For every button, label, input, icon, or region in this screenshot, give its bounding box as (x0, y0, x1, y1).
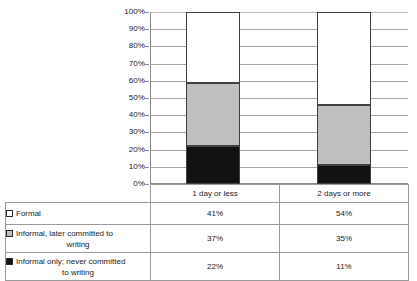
legend-line-2: writing (6, 239, 150, 250)
y-tickmark-10 (145, 167, 149, 168)
legend-cell-formal: Formal (6, 203, 151, 225)
legend-cell-informal-only: Informal only; never committed to writin… (6, 253, 151, 281)
table-row: Informal, later committed to writing 37%… (6, 225, 409, 253)
category-header-2: 2 days or more (280, 185, 409, 203)
y-tick-10: 10% (105, 163, 145, 171)
y-tickmark-60 (145, 81, 149, 82)
value-informal-later-1-day: 37% (151, 225, 280, 253)
y-axis-tick-labels: 100% 90% 80% 70% 60% 50% 40% 30% 20% 10%… (103, 12, 145, 184)
value-informal-later-2-days: 35% (280, 225, 409, 253)
informal-later-swatch-icon (6, 230, 13, 237)
informal-only-swatch-icon (6, 258, 13, 265)
y-tickmark-80 (145, 46, 149, 47)
legend-label-informal-later: Informal, later committed to (16, 229, 113, 238)
y-tick-90: 90% (105, 25, 145, 33)
y-tick-70: 70% (105, 60, 145, 68)
value-informal-only-2-days: 11% (280, 253, 409, 281)
table-row-categories: 1 day or less 2 days or more (6, 185, 409, 203)
table-corner-cell (6, 185, 151, 203)
y-tickmark-100 (145, 12, 149, 13)
plot-area (150, 12, 408, 184)
table-row: Informal only; never committed to writin… (6, 253, 409, 281)
y-tick-40: 40% (105, 111, 145, 119)
y-tickmark-50 (145, 98, 149, 99)
legend-line-1: Informal only; never committed (6, 256, 150, 267)
bar-segment-informal-only-1 (186, 146, 240, 184)
legend-line-1: Formal (6, 208, 150, 219)
formal-swatch-icon (6, 210, 13, 217)
legend-line-2: to writing (6, 267, 150, 278)
y-tick-100: 100% (105, 8, 145, 16)
y-tick-30: 30% (105, 128, 145, 136)
legend-label-formal: Formal (16, 209, 41, 218)
y-tickmark-70 (145, 64, 149, 65)
value-informal-only-1-day: 22% (151, 253, 280, 281)
value-formal-2-days: 54% (280, 203, 409, 225)
bar-segment-informal-later-2 (317, 105, 371, 165)
legend-cell-informal-later: Informal, later committed to writing (6, 225, 151, 253)
y-tick-80: 80% (105, 42, 145, 50)
y-tickmark-30 (145, 132, 149, 133)
value-formal-1-day: 41% (151, 203, 280, 225)
y-tickmark-40 (145, 115, 149, 116)
bar-segment-formal-1 (186, 12, 240, 83)
table-row: Formal 41% 54% (6, 203, 409, 225)
category-header-1: 1 day or less (151, 185, 280, 203)
legend-line-1: Informal, later committed to (6, 228, 150, 239)
bar-stack-2-days-or-more (317, 12, 371, 184)
y-tick-20: 20% (105, 146, 145, 154)
chart-data-table: 1 day or less 2 days or more Formal 41% … (5, 184, 409, 281)
legend-label-informal-only: Informal only; never committed (16, 257, 125, 266)
y-tick-60: 60% (105, 77, 145, 85)
bar-segment-informal-later-1 (186, 83, 240, 147)
bar-segment-formal-2 (317, 12, 371, 105)
y-tick-50: 50% (105, 94, 145, 102)
y-tickmark-90 (145, 29, 149, 30)
bar-segment-informal-only-2 (317, 165, 371, 184)
bar-stack-1-day-or-less (186, 12, 240, 184)
y-tickmark-20 (145, 150, 149, 151)
